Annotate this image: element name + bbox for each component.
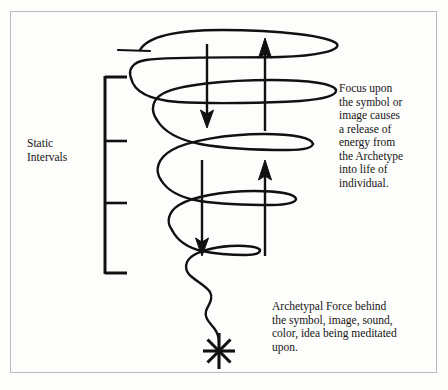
label-static-intervals: Static Intervals [27,137,117,164]
archetypal-line-2: the symbol, image, sound, [272,314,437,328]
arrow-down-icon-lower [196,160,209,256]
arrow-up-icon-upper [259,38,272,131]
label-focus-text: Focus upon the symbol or image causes a … [339,82,439,191]
spiral-vortex-icon [118,30,337,342]
arrow-up-icon-lower [259,160,272,256]
archetypal-line-3: color, idea being meditated [272,327,437,341]
label-archetypal-force: Archetypal Force behind the symbol, imag… [272,300,437,354]
interval-bracket-icon [105,76,127,274]
figure-canvas: Static Intervals Focus upon the symbol o… [0,0,448,390]
archetypal-line-4: upon. [272,341,437,355]
archetypal-line-1: Archetypal Force behind [272,300,437,314]
starburst-icon [203,333,235,369]
